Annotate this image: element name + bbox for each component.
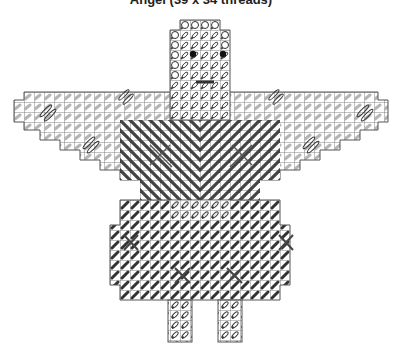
- left-eye: [190, 51, 196, 57]
- chest-diagonal-stitches: [120, 120, 280, 200]
- right-leg: [218, 300, 242, 342]
- left-leg: [168, 300, 192, 342]
- angel-pattern-chart: [0, 0, 402, 357]
- legs: [168, 300, 242, 342]
- head: [170, 20, 230, 120]
- right-eye: [220, 51, 226, 57]
- body: [110, 200, 293, 300]
